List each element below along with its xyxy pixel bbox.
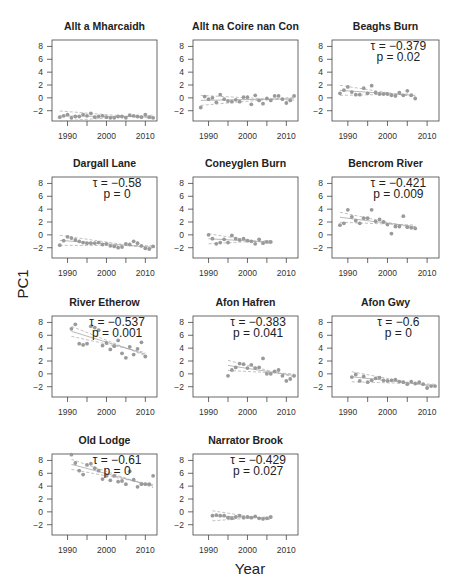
data-point [277,368,281,372]
data-point [257,366,261,370]
y-axis-label: PC1 [11,267,35,301]
data-point [358,93,362,97]
x-tick-label: 2000 [378,268,397,278]
data-point [136,115,140,119]
data-point [214,242,218,246]
data-point [246,95,250,99]
data-point [354,219,358,223]
data-point [143,113,147,117]
y-tick-label: −2 [174,520,184,530]
data-point [230,368,234,372]
data-point [85,241,89,245]
panel-afon-hafren: Afon Hafren−202468199020002010τ = −0.383… [174,296,298,417]
y-tick-label: 6 [318,191,323,201]
data-point [417,380,421,384]
data-point [62,239,66,243]
data-point [136,241,140,245]
data-point [281,97,285,101]
data-point [234,237,238,241]
y-tick-label: −2 [33,382,43,392]
data-point [366,91,370,95]
y-tick-label: 8 [179,317,184,327]
data-point [292,94,296,98]
y-tick-label: 0 [179,230,184,240]
data-point [269,372,273,376]
y-tick-label: 8 [38,41,43,51]
data-point [108,478,112,482]
data-point [147,115,151,119]
data-point [73,322,77,326]
y-tick-label: 8 [318,178,323,188]
data-point [112,245,116,249]
y-tick-label: 6 [318,54,323,64]
data-point [405,89,409,93]
x-tick-label: 1990 [338,131,357,141]
data-point [140,482,144,486]
panel-title: Dargall Lane [73,157,136,169]
data-point [284,101,288,105]
data-point [140,340,144,344]
y-tick-label: 0 [179,369,184,379]
y-tick-label: 4 [318,67,323,77]
data-point [390,378,394,382]
data-point [378,376,382,380]
data-point [147,247,151,251]
y-tick-label: 2 [179,80,184,90]
data-point [273,94,277,98]
x-tick-label: 2000 [97,545,116,555]
panel-narrator-brook: Narrator Brook−202468199020002010τ = −0.… [174,434,298,555]
data-point [199,106,203,110]
data-point [73,238,77,242]
data-point [265,372,269,376]
y-tick-label: 2 [318,356,323,366]
data-point [214,100,218,104]
data-point [218,241,222,245]
data-point [124,482,128,486]
y-tick-label: 4 [179,343,184,353]
y-tick-label: 2 [38,217,43,227]
data-point [97,241,101,245]
data-point [242,516,246,520]
data-point [230,234,234,238]
data-point [246,366,250,370]
y-tick-label: −2 [174,106,184,116]
data-point [257,237,261,241]
data-point [81,241,85,245]
data-point [338,91,342,95]
confidence-line [228,370,294,373]
data-point [354,373,358,377]
panel-beaghs-burn: Beaghs Burn−202468199020002010τ = −0.379… [313,20,439,141]
x-tick-label: 1990 [58,268,77,278]
data-point [66,235,70,239]
data-point [238,514,242,518]
data-point [265,240,269,244]
data-point [374,91,378,95]
panel-old-lodge: Old Lodge−202468199020002010τ = −0.61p =… [33,434,157,555]
data-point [288,377,292,381]
data-point [370,84,374,88]
data-point [101,344,105,348]
data-point [409,226,413,230]
data-point [85,342,89,346]
panel-title: Afon Gwy [361,296,410,308]
y-tick-label: 6 [318,330,323,340]
data-point [222,514,226,518]
data-point [429,384,433,388]
y-tick-label: 8 [38,317,43,327]
data-point [265,516,269,520]
data-point [77,469,81,473]
y-tick-label: 2 [179,356,184,366]
data-point [147,482,151,486]
data-point [143,246,147,250]
data-point [85,463,89,467]
y-tick-label: 8 [179,41,184,51]
data-point [93,241,97,245]
data-point [350,215,354,219]
panel-dargall-lane: Dargall Lane−202468199020002010τ = −0.58… [33,157,157,278]
data-point [362,375,366,379]
panel-title: Old Lodge [79,434,131,446]
y-tick-label: −2 [174,243,184,253]
data-point [405,225,409,229]
data-point [89,111,93,115]
data-point [234,98,238,102]
